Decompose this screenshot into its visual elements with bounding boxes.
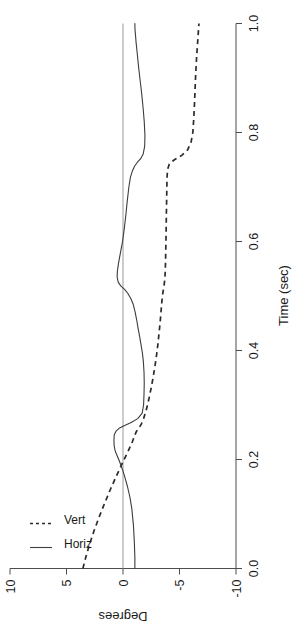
x-axis-title: Time (sec) [276,265,291,326]
y-tick-label: -10 [230,579,244,597]
line-chart-svg: 0.00.20.40.60.81.0 1050-5-10 Time (sec) … [0,0,298,625]
x-tick-label: 0.4 [247,341,261,358]
x-tick-label: 0.0 [247,559,261,576]
x-tick-label: 1.0 [247,14,261,31]
x-tick-label: 0.6 [247,232,261,249]
legend-label-vert: Vert [64,512,86,526]
y-axis-title-group: Degrees [98,608,148,623]
y-tick-label: 10 [4,579,18,593]
y-tick-label: 0 [117,579,131,586]
x-axis-title-group: Time (sec) [276,265,291,326]
chart-figure: 0.00.20.40.60.81.0 1050-5-10 Time (sec) … [0,0,298,625]
y-tick-label: 5 [60,579,74,586]
chart-background [0,0,298,625]
rotated-plot-container: 0.00.20.40.60.81.0 1050-5-10 Time (sec) … [0,0,298,625]
x-tick-label: 0.8 [247,123,261,140]
legend-label-horiz: Horiz [64,536,92,550]
x-tick-label: 0.2 [247,450,261,467]
y-tick-label: -5 [173,579,187,590]
y-axis-title: Degrees [98,608,148,623]
